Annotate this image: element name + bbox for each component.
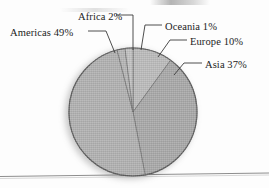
pie-label-europe: Europe 10% [190, 36, 243, 47]
pie-label-africa: Africa 2% [78, 11, 122, 22]
pie-chart-figure: Americas 49% Africa 2% Oceania 1% Europe… [0, 0, 269, 188]
scan-artifact-top [150, 0, 210, 5]
pie-label-americas: Americas 49% [10, 27, 73, 38]
pie-label-oceania: Oceania 1% [165, 21, 217, 32]
pie-label-asia: Asia 37% [205, 59, 247, 70]
pie-graphic [68, 47, 198, 177]
pie-slices [68, 47, 198, 177]
